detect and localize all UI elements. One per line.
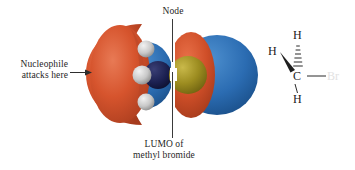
hydrogen-sphere-middle [133, 66, 152, 85]
methyl-bromide-lewis-structure: H H C H Br [265, 28, 355, 110]
lumo-of-methyl-bromide-label: LUMO of methyl bromide [118, 139, 210, 160]
lewis-bonds-svg [265, 28, 355, 110]
lewis-atom-hydrogen-left: H [268, 45, 277, 57]
lumo-orbital-illustration [80, 18, 260, 130]
hydrogen-sphere-bottom [138, 94, 155, 111]
nucleophile-attacks-here-label: Nucleophile attacks here [6, 59, 68, 80]
lewis-atom-bromine: Br [327, 70, 339, 82]
node-label: Node [149, 6, 197, 17]
orbital-svg [80, 18, 260, 130]
node-leader-line [172, 19, 173, 62]
lewis-atom-hydrogen-top: H [293, 29, 302, 41]
orbital-figure: Nucleophile attacks here Node LUMO of me… [0, 0, 355, 170]
lewis-atom-hydrogen-bottom: H [293, 93, 302, 105]
hydrogen-sphere-top [138, 41, 155, 58]
nucleophile-arrow-icon [70, 69, 92, 76]
hashed-bond-to-top-hydrogen [293, 46, 303, 66]
lewis-atom-carbon: C [293, 70, 301, 82]
lumo-leader-line [172, 72, 173, 138]
